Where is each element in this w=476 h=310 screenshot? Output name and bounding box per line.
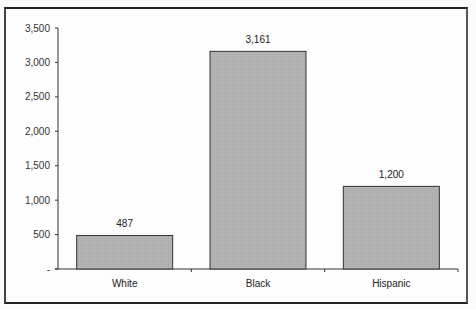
y-tick-label: 1,500 xyxy=(25,160,50,171)
bar-hispanic xyxy=(343,186,439,269)
bar-white xyxy=(77,235,173,269)
y-tick-label: 2,500 xyxy=(25,91,50,102)
data-label: 487 xyxy=(116,218,133,229)
category-label: Hispanic xyxy=(372,278,410,289)
data-label: 1,200 xyxy=(379,169,404,180)
bar-chart: -5001,0001,5002,0002,5003,0003,500 487Wh… xyxy=(0,0,476,310)
category-label: Black xyxy=(246,278,271,289)
bars: 487White3,161Black1,200Hispanic xyxy=(77,34,440,289)
bar-black xyxy=(210,51,306,269)
y-tick-label: 3,000 xyxy=(25,57,50,68)
category-label: White xyxy=(112,278,138,289)
y-tick-label: 500 xyxy=(33,229,50,240)
y-tick-label: 1,000 xyxy=(25,195,50,206)
y-tick-label: - xyxy=(47,264,50,275)
y-tick-label: 3,500 xyxy=(25,23,50,34)
y-tick-label: 2,000 xyxy=(25,126,50,137)
data-label: 3,161 xyxy=(245,34,270,45)
